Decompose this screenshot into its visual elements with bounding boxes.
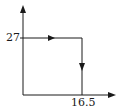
path-down-arrow-icon [79,63,85,71]
diagram-canvas [0,0,120,110]
x-axis-arrow-icon [108,92,116,98]
y-tick-label: 27 [6,32,20,43]
y-axis-arrow-icon [20,5,26,13]
x-tick-label: 16.5 [71,97,96,108]
path-right-arrow-icon [48,35,55,41]
